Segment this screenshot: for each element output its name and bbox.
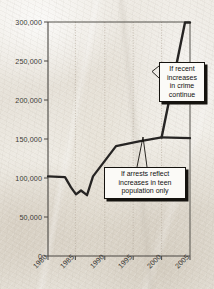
annotation-callout-crime-increase: If recent increases in crime continue <box>159 62 205 102</box>
annotation-callout-teen-population: If arrests reflect increases in teen pop… <box>104 167 186 199</box>
y-axis-ticks <box>44 22 48 256</box>
callout-line: continue <box>163 91 201 100</box>
y-tick-label: 300,000 <box>0 18 42 27</box>
y-tick-label: 200,000 <box>0 96 42 105</box>
plot-frame <box>48 22 190 256</box>
y-tick-label: 250,000 <box>0 57 42 66</box>
y-tick-label: 150,000 <box>0 135 42 144</box>
y-tick-label: 50,000 <box>0 213 42 222</box>
line-chart: 300,000 250,000 200,000 150,000 100,000 … <box>0 0 214 289</box>
callout-line: If recent <box>163 65 201 74</box>
callout-line: population only <box>108 187 182 196</box>
chart-canvas <box>0 0 214 289</box>
callout-line: in crime <box>163 82 201 91</box>
series-line-teen-population <box>162 137 190 138</box>
callout-line: increases in teen <box>108 179 182 188</box>
y-tick-label: 100,000 <box>0 174 42 183</box>
callout-line: increases <box>163 74 201 83</box>
callout-crime-leader-line <box>152 66 159 78</box>
callout-line: If arrests reflect <box>108 170 182 179</box>
